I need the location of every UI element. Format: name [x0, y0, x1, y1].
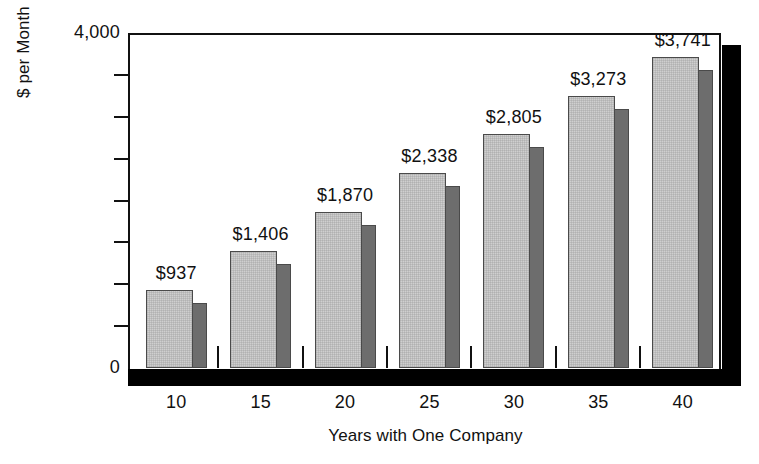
- bar-value-label: $3,273: [554, 69, 643, 90]
- bar-side-face: [446, 186, 460, 368]
- bar-front-face: [230, 251, 277, 368]
- bar-side-face: [193, 303, 207, 368]
- bar-front-face: [399, 173, 446, 368]
- x-axis-tick-label: 25: [385, 392, 474, 413]
- x-axis-tick: [217, 346, 219, 368]
- y-axis-tick-label-min: 0: [28, 357, 120, 378]
- bar-value-label: $937: [132, 263, 221, 284]
- frame-shadow-right: [722, 45, 741, 385]
- bar-front-face: [146, 290, 193, 368]
- y-axis-minor-tick: [114, 74, 130, 76]
- bar-side-face: [362, 225, 376, 368]
- bar-value-label: $2,805: [469, 107, 558, 128]
- x-axis-tick: [470, 346, 472, 368]
- x-axis-tick: [386, 346, 388, 368]
- x-axis-tick: [639, 346, 641, 368]
- y-axis-minor-tick: [114, 283, 130, 285]
- y-axis-minor-tick: [114, 325, 130, 327]
- x-axis-tick-label: 35: [554, 392, 643, 413]
- y-axis-minor-tick: [114, 200, 130, 202]
- x-axis-tick: [555, 346, 557, 368]
- x-axis-tick-label: 10: [132, 392, 221, 413]
- bar-side-face: [699, 70, 713, 368]
- bar-front-face: [315, 212, 362, 368]
- bar-side-face: [277, 264, 291, 368]
- y-axis-minor-tick: [114, 116, 130, 118]
- bar-value-label: $3,741: [638, 30, 727, 51]
- bar-value-label: $1,406: [216, 224, 305, 245]
- frame-shadow-bottom: [128, 369, 741, 386]
- x-axis-title: Years with One Company: [128, 426, 723, 446]
- y-axis-minor-tick: [114, 158, 130, 160]
- x-axis-tick-label: 30: [469, 392, 558, 413]
- plot-area: $937$1,406$1,870$2,338$2,805$3,273$3,741: [130, 35, 721, 368]
- y-axis-minor-tick: [114, 241, 130, 243]
- x-axis-tick-label: 15: [216, 392, 305, 413]
- bar-front-face: [568, 96, 615, 368]
- bar-side-face: [615, 109, 629, 368]
- bar-side-face: [530, 147, 544, 368]
- bar-front-face: [483, 134, 530, 368]
- x-axis-tick: [302, 346, 304, 368]
- x-axis-tick-label: 20: [301, 392, 390, 413]
- x-axis-tick-label: 40: [638, 392, 727, 413]
- bar-front-face: [652, 57, 699, 368]
- bar-value-label: $2,338: [385, 146, 474, 167]
- bar-value-label: $1,870: [301, 185, 390, 206]
- y-axis-tick-label-max: 4,000: [28, 22, 120, 43]
- bar-chart-figure: $ per Month 4,000 0 $937$1,406$1,870$2,3…: [0, 0, 759, 464]
